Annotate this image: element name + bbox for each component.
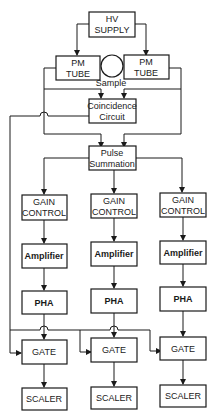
sample-circle <box>101 55 123 77</box>
gate-label: GATE <box>102 345 126 355</box>
pulse-summation-box: Pulse Summation <box>89 146 136 170</box>
coincidence-label-line2: Circuit <box>99 112 125 122</box>
amplifier-label: Amplifier <box>163 248 203 258</box>
gain-control-label-line1: GAIN <box>172 195 194 205</box>
pm-tube-left-box: PM TUBE <box>56 56 100 80</box>
coincidence-circuit-box: Coincidence Circuit <box>87 99 137 123</box>
scaler-label: SCALER <box>165 391 202 401</box>
gain-control-label-line1: GAIN <box>103 196 125 206</box>
gate-label: GATE <box>171 344 195 354</box>
pm-tube-left-label-line1: PM <box>71 58 85 68</box>
sample-label: Sample <box>96 78 127 88</box>
hv-supply-box: HV SUPPLY <box>89 12 135 37</box>
coincidence-label-line1: Coincidence <box>87 101 137 111</box>
hv-supply-label-line1: HV <box>106 14 119 24</box>
pulse-summation-label-line2: Summation <box>89 159 135 169</box>
gain-control-label-line2: CONTROL <box>161 206 205 216</box>
pm-tube-right-label-line1: PM <box>139 57 153 67</box>
gain-control-label-line1: GAIN <box>33 197 55 207</box>
pm-tube-right-label-line2: TUBE <box>134 68 158 78</box>
pulse-summation-label-line1: Pulse <box>101 148 124 158</box>
gain-control-label-line2: CONTROL <box>22 208 66 218</box>
pm-tube-left-label-line2: TUBE <box>66 69 90 79</box>
pm-tube-right-box: PM TUBE <box>124 55 169 79</box>
pha-label: PHA <box>173 294 193 304</box>
amplifier-label: Amplifier <box>24 251 64 261</box>
gain-control-label-line2: CONTROL <box>92 207 136 217</box>
scaler-label: SCALER <box>96 393 133 403</box>
gate-label: GATE <box>32 347 56 357</box>
pha-label: PHA <box>104 296 124 306</box>
amplifier-label: Amplifier <box>94 249 134 259</box>
scaler-label: SCALER <box>26 394 63 404</box>
hv-supply-label-line2: SUPPLY <box>95 25 130 35</box>
pha-label: PHA <box>34 298 54 308</box>
coincidence-counting-block-diagram: HV SUPPLY PM TUBE Sample PM TUBE Coincid… <box>0 0 215 414</box>
